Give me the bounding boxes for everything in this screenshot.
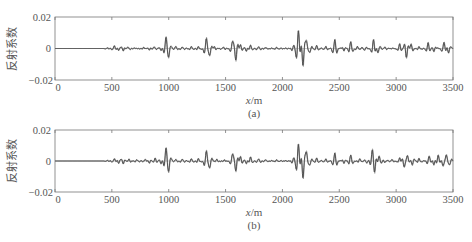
x-tick-label: 3500 <box>443 194 464 205</box>
y-tick-mid-b: 0 <box>46 156 51 167</box>
curves-b <box>55 144 453 178</box>
x-tick-label: 1500 <box>215 194 236 205</box>
y-tick-top-a: 0.02 <box>33 12 51 23</box>
y-tick-top-b: 0.02 <box>33 125 51 136</box>
series-1-line <box>55 31 453 65</box>
x-axis-label-a: x/m <box>245 94 263 106</box>
y-axis-label-a: 反射系数 <box>5 27 18 71</box>
y-tick-bot-a: −0.02 <box>29 75 53 86</box>
x-tick-label: 1000 <box>158 194 179 205</box>
caption-b: (b) <box>248 219 261 232</box>
caption-a: (a) <box>248 107 261 120</box>
x-tick-label: 3000 <box>386 82 407 93</box>
x-tick-label: 0 <box>55 194 60 205</box>
x-tick-label: 3000 <box>386 194 407 205</box>
x-tick-labels-b: 0500100015002000250030003500 <box>55 194 463 205</box>
x-tick-labels-a: 0500100015002000250030003500 <box>55 82 463 93</box>
y-tick-mid-a: 0 <box>46 43 51 54</box>
x-tick-label: 500 <box>104 82 120 93</box>
panel-b: 0500100015002000250030003500 0.02 0 −0.0… <box>5 125 464 232</box>
x-tick-label: 2000 <box>272 194 293 205</box>
y-axis-label-b: 反射系数 <box>5 139 18 183</box>
x-axis-label-b: x/m <box>245 206 263 218</box>
x-tick-label: 1000 <box>158 82 179 93</box>
x-tick-label: 2000 <box>272 82 293 93</box>
figure: 0500100015002000250030003500 0.02 0 −0.0… <box>0 0 472 242</box>
x-tick-label: 0 <box>55 82 60 93</box>
x-tick-label: 500 <box>104 194 120 205</box>
x-tick-label: 2500 <box>329 194 350 205</box>
panel-a: 0500100015002000250030003500 0.02 0 −0.0… <box>5 12 464 120</box>
x-tick-label: 1500 <box>215 82 236 93</box>
y-tick-bot-b: −0.02 <box>29 187 53 198</box>
x-tick-label: 3500 <box>443 82 464 93</box>
x-tick-label: 2500 <box>329 82 350 93</box>
